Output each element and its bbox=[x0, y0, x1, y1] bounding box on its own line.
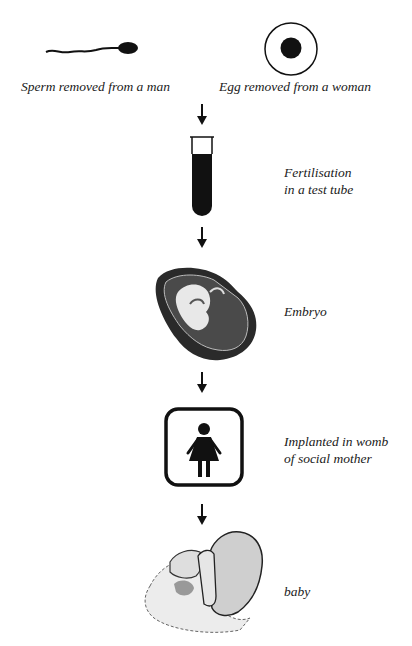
embryo-label: Embryo bbox=[284, 303, 327, 320]
sperm-icon bbox=[44, 38, 140, 58]
egg-label: Egg removed from a woman bbox=[219, 78, 371, 95]
baby-label: baby bbox=[284, 583, 310, 600]
woman-icon bbox=[164, 407, 244, 487]
fertilisation-label-line2: in a test tube bbox=[284, 181, 353, 198]
implantation-label-line2: of social mother bbox=[284, 450, 372, 467]
fertilisation-label-line1: Fertilisation bbox=[284, 164, 352, 181]
arrow-down-icon bbox=[197, 372, 207, 394]
test-tube-icon bbox=[190, 136, 214, 218]
arrow-down-icon bbox=[197, 504, 207, 526]
baby-icon bbox=[140, 526, 275, 636]
implantation-label-line1: Implanted in womb bbox=[284, 433, 388, 450]
arrow-down-icon bbox=[197, 227, 207, 249]
egg-icon bbox=[263, 21, 319, 77]
embryo-icon bbox=[150, 264, 260, 364]
sperm-label: Sperm removed from a man bbox=[21, 78, 170, 95]
arrow-down-icon bbox=[197, 104, 207, 126]
